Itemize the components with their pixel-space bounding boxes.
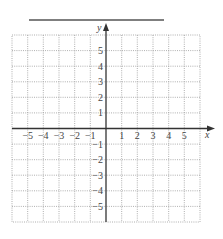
y-tick-label: −2 <box>92 154 103 165</box>
x-tick-label: 3 <box>151 130 156 141</box>
x-axis-label: x <box>204 129 210 140</box>
y-tick-label: −4 <box>92 185 103 196</box>
x-tick-label: 5 <box>182 130 187 141</box>
y-axis <box>103 23 109 222</box>
x-tick-label: −4 <box>38 130 49 141</box>
y-tick-label: 2 <box>98 92 103 103</box>
coordinate-plane: y x −5 −4 −3 −2 −1 1 2 3 4 5 5 4 3 2 1 −… <box>0 0 223 239</box>
y-tick-label: 4 <box>98 61 103 72</box>
y-tick-label: 1 <box>98 107 103 118</box>
y-tick-label: 5 <box>98 45 103 56</box>
x-tick-label: 1 <box>119 130 124 141</box>
x-tick-label: 2 <box>135 130 140 141</box>
y-tick-label: −3 <box>92 170 103 181</box>
y-axis-arrow-icon <box>103 23 109 31</box>
x-tick-label: −5 <box>22 130 33 141</box>
x-tick-labels: −5 −4 −3 −2 −1 1 2 3 4 5 <box>22 130 186 141</box>
y-tick-label: −1 <box>92 139 103 150</box>
x-tick-label: −3 <box>54 130 65 141</box>
y-tick-label: 3 <box>98 76 103 87</box>
y-axis-label: y <box>96 22 102 33</box>
x-tick-label: −2 <box>69 130 80 141</box>
y-tick-label: −5 <box>92 201 103 212</box>
x-tick-label: 4 <box>166 130 171 141</box>
